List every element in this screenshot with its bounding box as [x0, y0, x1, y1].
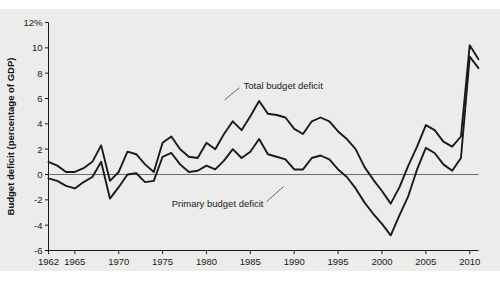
y-axis-title-text: Budget deficit (percentage of GDP): [5, 58, 16, 216]
x-tick-label: 1965: [64, 256, 85, 267]
x-tick-label: 1995: [328, 256, 349, 267]
y-axis-title: Budget deficit (percentage of GDP): [5, 58, 16, 216]
y-tick-label: 4: [37, 118, 42, 129]
x-tick-label: 2000: [371, 256, 392, 267]
y-tick-label: 12%: [23, 17, 43, 28]
series-annotations: Total budget deficitPrimary budget defic…: [172, 80, 324, 209]
chart-figure: -6-4-2024681012% 19621965197019751980198…: [0, 0, 500, 287]
line-chart: -6-4-2024681012% 19621965197019751980198…: [0, 0, 500, 287]
x-tick-label: 2005: [415, 256, 436, 267]
total-budget-deficit-label: Total budget deficit: [244, 80, 324, 91]
y-tick-label: 0: [37, 169, 42, 180]
y-axis: -6-4-2024681012%: [23, 17, 48, 256]
x-tick-label: 1970: [108, 256, 129, 267]
x-tick-label: 1985: [240, 256, 261, 267]
primary-budget-deficit-label: Primary budget deficit: [172, 198, 264, 209]
x-tick-label: 2010: [459, 256, 480, 267]
x-tick-label: 1975: [152, 256, 173, 267]
y-tick-label: -2: [34, 194, 42, 205]
y-tick-label: 10: [32, 42, 43, 53]
x-tick-label: 1962: [38, 256, 59, 267]
y-tick-label: -6: [34, 245, 42, 256]
x-tick-label: 1980: [196, 256, 217, 267]
y-tick-label: 8: [37, 68, 42, 79]
data-series-group: [49, 45, 479, 235]
y-tick-label: 2: [37, 144, 42, 155]
y-tick-label: -4: [34, 220, 42, 231]
y-tick-label: 6: [37, 93, 42, 104]
x-tick-label: 1990: [284, 256, 305, 267]
x-axis: 1962196519701975198019851990199520002005…: [38, 251, 480, 267]
